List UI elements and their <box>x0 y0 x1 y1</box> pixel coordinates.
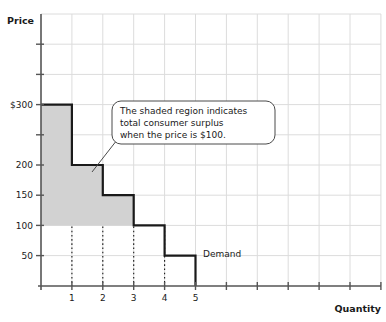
demand-curve-label: Demand <box>203 249 241 259</box>
y-tick-label-50: 50 <box>22 251 34 261</box>
y-tick-label-200: 200 <box>16 160 33 170</box>
y-tick-label-300: $300 <box>10 100 33 110</box>
y-tick-label-100: 100 <box>16 221 33 231</box>
x-tick-label-4: 4 <box>162 293 168 303</box>
x-tick-label-1: 1 <box>69 293 75 303</box>
x-axis-title: Quantity <box>334 303 381 314</box>
plot-background <box>41 14 381 286</box>
callout-line-3: when the price is $100. <box>120 130 226 140</box>
callout-line-2: total consumer surplus <box>120 118 224 128</box>
y-tick-label-150: 150 <box>16 190 33 200</box>
consumer-surplus-chart: $300 200 150 100 50 1 2 3 4 5 Price Quan… <box>0 0 386 322</box>
chart-svg: $300 200 150 100 50 1 2 3 4 5 Price Quan… <box>0 0 386 322</box>
y-axis-title: Price <box>7 15 34 26</box>
callout-line-1: The shaded region indicates <box>119 106 248 116</box>
x-tick-label-5: 5 <box>193 293 199 303</box>
consumer-surplus-callout: The shaded region indicates total consum… <box>112 101 275 144</box>
x-tick-label-3: 3 <box>131 293 137 303</box>
x-tick-label-2: 2 <box>100 293 106 303</box>
